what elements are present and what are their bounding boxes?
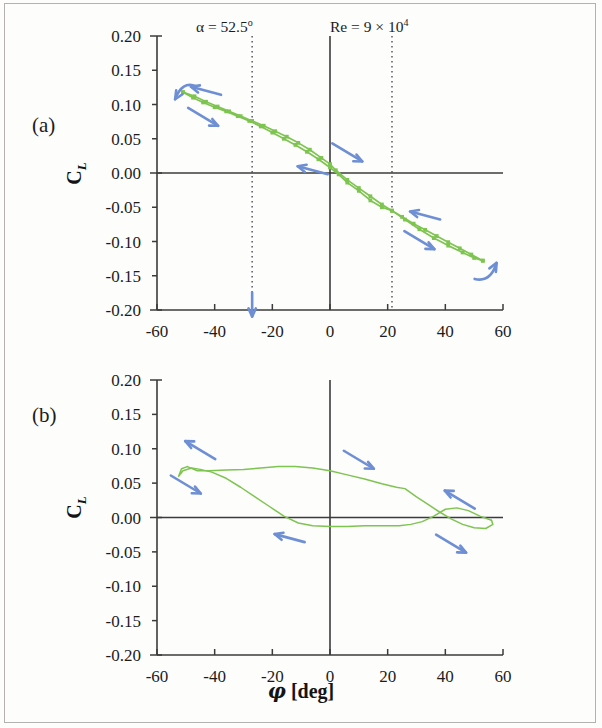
direction-arrow — [171, 476, 201, 494]
direction-arrow — [404, 231, 434, 249]
data-point-marker — [273, 129, 277, 133]
direction-arrow — [249, 293, 256, 317]
data-point-marker — [227, 109, 231, 113]
x-axis-title-symbol: φ — [268, 679, 286, 703]
arrow-shaft — [436, 535, 466, 553]
y-tick-label: 0.05 — [111, 130, 141, 149]
data-point-marker — [250, 119, 254, 123]
data-point-marker — [446, 244, 450, 248]
data-point-marker — [262, 124, 266, 128]
panel-b-y-tick-labels: 0.200.150.100.050.00-0.05-0.10-0.15-0.20 — [106, 371, 141, 665]
annotation-alpha: α = 52.5o — [196, 17, 253, 36]
x-tick-label: 60 — [495, 322, 512, 341]
figure-container: 0.200.150.100.050.00-0.05-0.10-0.15-0.20… — [0, 0, 602, 728]
y-tick-label: -0.05 — [106, 198, 141, 217]
data-point-marker — [345, 178, 349, 182]
x-axis-title: φ [deg] — [0, 679, 602, 703]
direction-arrow — [445, 491, 475, 509]
panel-a-y-tick-labels: 0.200.150.100.050.00-0.05-0.10-0.15-0.20 — [106, 27, 141, 320]
direction-arrow — [275, 533, 305, 542]
panel-a-y-axis-title-sub: L — [74, 162, 89, 170]
panel-b-data-series — [179, 467, 493, 529]
y-tick-label: 0.15 — [111, 61, 141, 80]
panel-b-y-axis-title-sub: L — [74, 496, 89, 504]
arrow-shaft — [188, 108, 218, 126]
panel-a-y-axis-title: CL — [63, 144, 90, 204]
data-point-marker — [308, 148, 312, 152]
panel-a-data-series — [181, 90, 485, 262]
x-tick-label: 20 — [379, 322, 396, 341]
panel-b: 0.200.150.100.050.00-0.05-0.10-0.15-0.20… — [0, 344, 602, 728]
data-point-marker — [458, 246, 462, 250]
direction-arrow — [188, 108, 218, 126]
data-point-marker — [380, 203, 384, 207]
data-point-marker — [334, 168, 338, 172]
data-point-marker — [285, 135, 289, 139]
data-point-marker — [469, 253, 473, 257]
annotation-alpha-text: α = 52.5 — [196, 18, 248, 35]
data-point-marker — [446, 240, 450, 244]
y-tick-label: -0.05 — [106, 543, 141, 562]
panel-a-direction-arrows — [175, 85, 497, 317]
panel-b-y-axis-title: CL — [63, 478, 90, 538]
data-point-marker — [204, 100, 208, 104]
data-point-marker — [319, 156, 323, 160]
y-tick-label: -0.20 — [106, 301, 141, 320]
arrow-shaft — [185, 441, 215, 459]
direction-arrow — [475, 263, 497, 280]
annotation-alpha-degree: o — [248, 17, 253, 28]
x-tick-label: 40 — [437, 322, 454, 341]
direction-arrow — [344, 451, 374, 469]
direction-arrow — [436, 535, 466, 553]
data-point-marker — [328, 162, 332, 166]
data-point-marker — [481, 259, 485, 263]
direction-arrow — [332, 143, 362, 161]
y-tick-label: 0.10 — [111, 440, 141, 459]
x-axis-title-units: [deg] — [286, 680, 334, 702]
panel-b-reference-lines — [157, 380, 503, 655]
x-tick-label: -40 — [203, 322, 226, 341]
panel-a-plot: 0.200.150.100.050.00-0.05-0.10-0.15-0.20… — [0, 0, 602, 352]
data-point-marker — [216, 105, 220, 109]
annotation-reynolds: Re = 9 × 104 — [330, 17, 408, 36]
panel-a-y-axis-title-main: C — [63, 170, 85, 184]
y-tick-label: 0.20 — [111, 371, 141, 390]
data-point-marker — [193, 94, 197, 98]
data-point-marker — [423, 228, 427, 232]
direction-arrow — [185, 441, 215, 459]
y-tick-label: -0.10 — [106, 577, 141, 596]
data-point-marker — [296, 141, 300, 145]
annotation-reynolds-exponent: 4 — [403, 17, 408, 28]
y-tick-label: -0.20 — [106, 646, 141, 665]
panel-a-x-tick-labels: -60-40-200204060 — [146, 322, 512, 341]
arrow-shaft — [171, 476, 201, 494]
data-point-marker — [357, 186, 361, 190]
data-point-marker — [368, 199, 372, 203]
data-point-marker — [412, 222, 416, 226]
arrow-shaft — [404, 231, 434, 249]
panel-a: 0.200.150.100.050.00-0.05-0.10-0.15-0.20… — [0, 0, 602, 352]
y-tick-label: -0.15 — [106, 612, 141, 631]
x-tick-label: 0 — [326, 322, 335, 341]
data-point-marker — [239, 114, 243, 118]
data-point-marker — [435, 234, 439, 238]
y-tick-label: 0.10 — [111, 96, 141, 115]
data-point-marker — [390, 209, 394, 213]
y-tick-label: 0.05 — [111, 474, 141, 493]
data-point-marker — [400, 215, 404, 219]
arrow-shaft — [344, 451, 374, 469]
y-tick-label: 0.20 — [111, 27, 141, 46]
x-tick-label: -60 — [146, 322, 169, 341]
arrow-shaft — [445, 491, 475, 509]
y-tick-label: 0.15 — [111, 405, 141, 424]
y-tick-label: -0.10 — [106, 233, 141, 252]
panel-a-reference-lines — [157, 36, 503, 310]
panel-b-plot: 0.200.150.100.050.00-0.05-0.10-0.15-0.20… — [0, 344, 602, 728]
panel-a-label: (a) — [32, 113, 55, 138]
panel-b-y-axis-title-main: C — [63, 504, 85, 518]
y-tick-label: 0.00 — [111, 509, 141, 528]
arrow-shaft — [332, 143, 362, 161]
panel-b-label: (b) — [32, 403, 57, 428]
data-point-marker — [368, 194, 372, 198]
panel-b-direction-arrows — [171, 441, 475, 553]
